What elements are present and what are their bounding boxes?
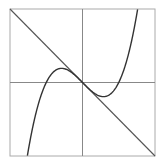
chart [0,0,163,166]
